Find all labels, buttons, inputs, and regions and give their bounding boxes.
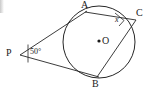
label-point-a: A — [81, 0, 88, 10]
label-point-c: C — [136, 8, 143, 18]
tangent-line-pb — [20, 55, 99, 77]
label-point-b: B — [92, 79, 99, 89]
label-point-p: P — [6, 48, 12, 58]
label-center-o: O — [102, 36, 109, 46]
chord-line-bc — [97, 20, 136, 77]
label-angle-c: x — [115, 16, 119, 24]
chord-line-ac — [85, 12, 136, 20]
label-angle-p: 50° — [30, 48, 41, 56]
geometry-canvas — [0, 0, 145, 92]
geometry-diagram: A B C O P 50° x — [0, 0, 145, 92]
center-dot-o — [97, 39, 100, 42]
